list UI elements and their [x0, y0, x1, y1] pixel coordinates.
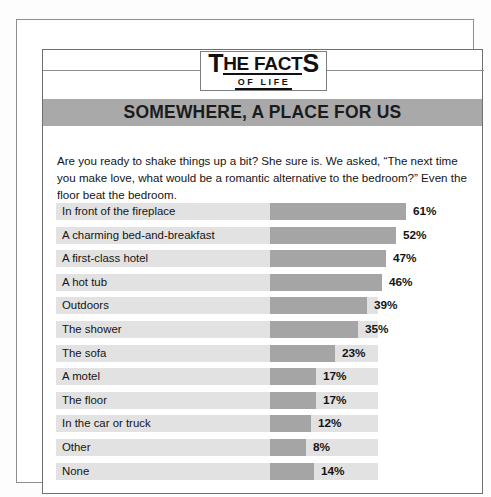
row-value-label: 17%: [323, 392, 347, 409]
row-category-label: A first-class hotel: [62, 250, 148, 267]
row-bar: [270, 368, 316, 385]
logo-letter-t: T: [208, 54, 223, 73]
row-category-label: A motel: [62, 368, 100, 385]
chart-row: The shower35%: [56, 321, 470, 338]
row-value-label: 14%: [321, 463, 345, 480]
chart-row: A charming bed-and-breakfast52%: [56, 227, 470, 244]
row-bar: [270, 203, 406, 220]
row-bar: [270, 345, 335, 362]
row-value-label: 23%: [342, 345, 366, 362]
row-bar: [270, 297, 367, 314]
row-value-label: 17%: [323, 368, 347, 385]
row-bar: [270, 250, 386, 267]
row-value-label: 46%: [389, 274, 413, 291]
outer-border: THE FACTS OF LIFE SOMEWHERE, A PLACE FOR…: [16, 19, 474, 483]
intro-paragraph: Are you ready to shake things up a bit? …: [57, 152, 471, 204]
logo-line-primary: THE FACTS: [208, 52, 319, 75]
chart-row: A motel17%: [56, 368, 470, 385]
row-bar: [270, 463, 314, 480]
chart-row: A first-class hotel47%: [56, 250, 470, 267]
chart-row: Outdoors39%: [56, 297, 470, 314]
row-category-label: A charming bed-and-breakfast: [62, 227, 215, 244]
row-category-label: Other: [62, 439, 91, 456]
row-bar: [270, 274, 382, 291]
row-value-label: 12%: [318, 415, 342, 432]
row-bar: [270, 392, 316, 409]
row-value-label: 35%: [365, 321, 389, 338]
row-category-label: The sofa: [62, 345, 106, 362]
row-bar: [270, 227, 396, 244]
bar-chart: In front of the fireplace61%A charming b…: [56, 203, 470, 486]
row-category-label: The floor: [62, 392, 107, 409]
row-value-label: 39%: [374, 297, 398, 314]
row-category-label: Outdoors: [62, 297, 109, 314]
chart-row: A hot tub46%: [56, 274, 470, 291]
row-value-label: 8%: [313, 439, 330, 456]
logo-letter-s: S: [302, 54, 318, 73]
inner-border: THE FACTS OF LIFE SOMEWHERE, A PLACE FOR…: [42, 49, 483, 494]
row-value-label: 52%: [403, 227, 427, 244]
row-category-label: None: [62, 463, 89, 480]
chart-row: Other8%: [56, 439, 470, 456]
chart-row: In the car or truck12%: [56, 415, 470, 432]
row-value-label: 47%: [393, 250, 417, 267]
chart-row: The floor17%: [56, 392, 470, 409]
chart-row: None14%: [56, 463, 470, 480]
chart-row: In front of the fireplace61%: [56, 203, 470, 220]
row-category-label: In the car or truck: [62, 415, 151, 432]
facts-of-life-logo: THE FACTS OF LIFE: [200, 51, 327, 91]
logo-text-middle: HE FACT: [223, 54, 302, 75]
row-value-label: 61%: [413, 203, 437, 220]
row-category-label: In front of the fireplace: [62, 203, 175, 220]
row-bar: [270, 415, 311, 432]
title-banner: SOMEWHERE, A PLACE FOR US: [43, 99, 482, 126]
row-category-label: A hot tub: [62, 274, 107, 291]
magazine-page: THE FACTS OF LIFE SOMEWHERE, A PLACE FOR…: [0, 0, 491, 497]
page-title: SOMEWHERE, A PLACE FOR US: [124, 102, 402, 123]
row-category-label: The shower: [62, 321, 122, 338]
row-bar: [270, 321, 358, 338]
masthead-rule-left: [43, 70, 201, 71]
chart-row: The sofa23%: [56, 345, 470, 362]
logo-line-secondary: OF LIFE: [235, 76, 293, 90]
row-bar: [270, 439, 306, 456]
masthead-rule-right: [326, 70, 484, 71]
